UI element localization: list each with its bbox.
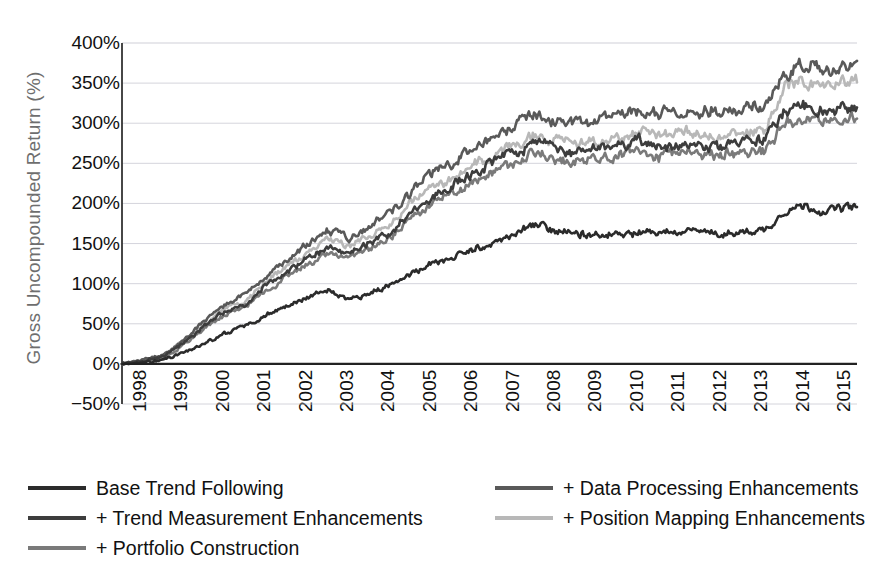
legend-label: + Data Processing Enhancements bbox=[563, 477, 858, 500]
legend-item[interactable]: + Position Mapping Enhancements bbox=[495, 506, 865, 530]
legend-item[interactable]: Base Trend Following bbox=[28, 476, 284, 500]
chart-legend: Base Trend Following+ Trend Measurement … bbox=[0, 476, 873, 576]
legend-item[interactable]: + Trend Measurement Enhancements bbox=[28, 506, 423, 530]
series-line bbox=[122, 59, 857, 364]
legend-label: + Position Mapping Enhancements bbox=[563, 507, 865, 530]
legend-swatch bbox=[495, 516, 553, 520]
series-line bbox=[122, 75, 857, 364]
legend-swatch bbox=[28, 516, 86, 520]
legend-item[interactable]: + Portfolio Construction bbox=[28, 536, 299, 560]
legend-swatch bbox=[28, 546, 86, 550]
legend-label: + Portfolio Construction bbox=[96, 537, 299, 560]
chart-figure: Gross Uncompounded Return (%) 400%350%30… bbox=[0, 0, 873, 578]
legend-label: Base Trend Following bbox=[96, 477, 284, 500]
series-line bbox=[122, 113, 857, 364]
legend-swatch bbox=[495, 486, 553, 490]
legend-label: + Trend Measurement Enhancements bbox=[96, 507, 423, 530]
legend-swatch bbox=[28, 486, 86, 490]
legend-item[interactable]: + Data Processing Enhancements bbox=[495, 476, 858, 500]
